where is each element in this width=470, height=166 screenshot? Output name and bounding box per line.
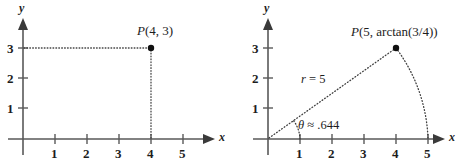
y-tick-label-2: 2: [7, 72, 14, 85]
x-axis-arrowhead: [203, 134, 215, 144]
y-axis-label: y: [19, 2, 24, 14]
x-tick-label-1: 1: [296, 147, 303, 160]
x-tick-label-3: 3: [115, 147, 122, 160]
x-axis-label: x: [219, 131, 225, 143]
y-tick-label-3: 3: [252, 42, 259, 55]
radius-arc: [396, 48, 428, 139]
angle-value: ≈ .644: [304, 118, 339, 132]
x-tick-label-2: 2: [83, 147, 90, 160]
polar-vs-rectangular-figure: y x 1 2 3 4 5 1 2 3 P(4, 3): [0, 0, 470, 166]
point-label-symbol: P: [351, 24, 359, 39]
point-marker-p: [148, 45, 154, 51]
point-label-args: (5, arctan(3/4)): [359, 24, 438, 39]
rectangular-plot-svg: [0, 0, 235, 166]
panel-polar-coordinates: y x 1 2 3 4 5 1 2 3 P(5, arctan(3/4)) r …: [235, 0, 470, 166]
y-tick-label-1: 1: [7, 102, 14, 115]
point-label-p: P(5, arctan(3/4)): [351, 25, 438, 38]
x-tick-label-1: 1: [51, 147, 58, 160]
x-tick-label-4: 4: [147, 147, 154, 160]
x-tick-label-2: 2: [328, 147, 335, 160]
y-tick-label-3: 3: [7, 42, 14, 55]
radius-value: = 5: [306, 72, 326, 86]
x-tick-label-5: 5: [424, 147, 431, 160]
point-marker-p: [393, 45, 399, 51]
point-label-args: (4, 3): [145, 23, 173, 38]
x-tick-label-3: 3: [360, 147, 367, 160]
point-label-p: P(4, 3): [137, 24, 173, 37]
radius-label: r = 5: [301, 73, 325, 86]
x-tick-label-4: 4: [392, 147, 399, 160]
y-axis-arrowhead: [18, 18, 28, 30]
angle-label: θ ≈ .644: [298, 119, 339, 132]
x-tick-label-5: 5: [179, 147, 186, 160]
x-axis-arrowhead: [433, 134, 445, 144]
x-axis-label: x: [449, 131, 455, 143]
y-tick-label-1: 1: [252, 102, 259, 115]
y-axis-arrowhead: [263, 18, 273, 30]
y-axis-label: y: [264, 2, 269, 14]
y-tick-label-2: 2: [252, 72, 259, 85]
panel-rectangular-coordinates: y x 1 2 3 4 5 1 2 3 P(4, 3): [0, 0, 235, 166]
point-label-symbol: P: [137, 23, 145, 38]
